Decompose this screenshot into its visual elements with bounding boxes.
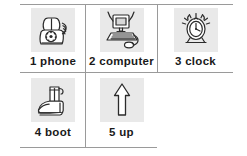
grid-cell-clock[interactable]: 3 clock [158,5,233,72]
item-caption: 1 phone [30,56,76,68]
alarm-clock-icon [174,8,218,52]
up-arrow-icon [100,78,144,122]
item-caption: 3 clock [175,56,216,68]
computer-icon [100,8,144,52]
grid-line-bottom [20,147,157,148]
grid-cell-phone[interactable]: 1 phone [21,5,85,72]
item-caption: 4 boot [35,127,71,139]
boot-icon [31,78,75,122]
grid-cell-up[interactable]: 5 up [86,73,157,147]
worksheet-grid: 1 phone [0,0,247,156]
grid-cell-computer[interactable]: 2 computer [86,5,157,72]
item-caption: 2 computer [89,56,154,68]
item-caption: 5 up [109,127,134,139]
grid-cell-boot[interactable]: 4 boot [21,73,85,147]
telephone-icon [31,8,75,52]
